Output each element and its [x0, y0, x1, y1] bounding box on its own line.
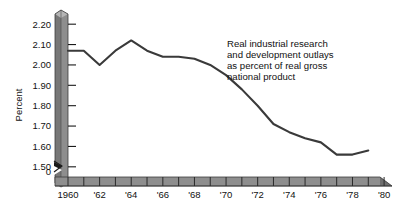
y-axis-title: Percent [13, 88, 24, 121]
y-axis-tick-label: 1.90 [33, 80, 52, 91]
y-axis-ticks [68, 24, 76, 167]
y-axis-tick-label: 1.60 [33, 141, 52, 152]
y-axis-origin-label: 0 [46, 166, 51, 177]
x-axis-tick-label: '64 [125, 189, 137, 200]
y-axis-tick-label: 1.70 [33, 120, 52, 131]
x-axis-tick-labels: 1960'62'64'66'68'70'72'74'76'78'80 [57, 189, 390, 200]
chart-container: 1.501.601.701.801.902.002.102.20 0 Perce… [0, 0, 407, 215]
y-axis-tick-label: 2.00 [33, 59, 52, 70]
x-axis-tick-label: '70 [220, 189, 232, 200]
annotation-line-3: as percent of real gross [227, 60, 327, 71]
y-axis-3d-bar [55, 10, 68, 187]
x-axis-tick-label: '74 [283, 189, 295, 200]
y-axis-tick-label: 1.80 [33, 100, 52, 111]
x-axis-tick-label: '66 [157, 189, 169, 200]
x-axis-ticks [68, 177, 384, 186]
y-axis-tick-label: 2.20 [33, 19, 52, 30]
x-axis-3d-bar [55, 177, 392, 186]
annotation-line-1: Real industrial research [227, 38, 328, 49]
x-axis-tick-label: '68 [188, 189, 200, 200]
line-chart: 1.501.601.701.801.902.002.102.20 0 Perce… [0, 0, 407, 215]
annotation-line-4: national product [227, 71, 296, 82]
x-axis-tick-label: '78 [346, 189, 358, 200]
annotation-line-2: and development outlays [227, 49, 334, 60]
x-axis-tick-label: '76 [315, 189, 327, 200]
x-axis-tick-label: '72 [251, 189, 263, 200]
x-axis-tick-label: '62 [93, 189, 105, 200]
y-axis-tick-labels: 1.501.601.701.801.902.002.102.20 [33, 19, 52, 173]
x-axis-tick-label: 1960 [57, 189, 78, 200]
y-axis-tick-label: 2.10 [33, 39, 52, 50]
chart-annotation: Real industrial research and development… [227, 38, 334, 82]
x-axis-tick-label: '80 [378, 189, 390, 200]
